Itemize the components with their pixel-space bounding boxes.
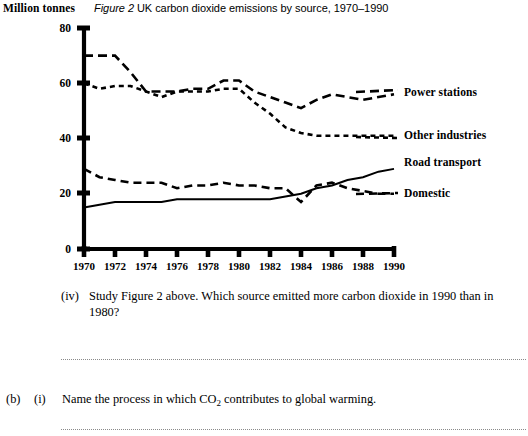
x-tick-label: 1986 <box>321 260 344 272</box>
question-b-i-text-after: contributes to global warming. <box>221 392 376 406</box>
legend-label-other-industries: Other industries <box>404 129 486 141</box>
x-tick-label: 1984 <box>290 260 313 272</box>
x-tick-label: 1972 <box>104 260 127 272</box>
y-axis-tick-labels: 80 60 40 20 0 <box>60 22 72 255</box>
series-line-domestic <box>84 169 394 202</box>
question-iv-marker: (iv) <box>61 289 89 305</box>
x-tick-label: 1970 <box>73 260 96 272</box>
x-tick-label: 1988 <box>352 260 375 272</box>
figure-2-chart: Million tonnes Figure 2 UK carbon dioxid… <box>0 0 528 276</box>
y-tick-label: 0 <box>65 243 71 255</box>
x-axis-tick-labels: 1970 1972 1974 1976 1978 1980 1982 1984 … <box>73 260 406 272</box>
y-tick-label: 80 <box>60 22 72 34</box>
series-line-road-transport <box>84 169 394 208</box>
series-line-power-stations <box>84 56 394 108</box>
x-tick-label: 1974 <box>135 260 158 272</box>
legend-label-road-transport: Road transport <box>404 156 481 168</box>
x-tick-label: 1978 <box>197 260 220 272</box>
legend-label-power-stations: Power stations <box>404 86 477 98</box>
y-tick-label: 20 <box>60 187 72 199</box>
question-i-marker: (i) <box>34 392 46 408</box>
answer-line-1[interactable] <box>61 357 526 360</box>
question-iv: (iv) Study Figure 2 above. Which source … <box>61 289 516 320</box>
legend-swatch-other-industries <box>356 137 398 138</box>
question-b-i-text-before: Name the process in which CO <box>62 392 217 406</box>
answer-line-2[interactable] <box>61 427 526 430</box>
question-iv-text: Study Figure 2 above. Which source emitt… <box>89 289 516 320</box>
y-tick-label: 60 <box>60 77 72 89</box>
question-b-i-text: Name the process in which CO2 contribute… <box>62 392 506 412</box>
chart-axes <box>84 28 394 249</box>
chart-series-group <box>84 56 394 208</box>
x-tick-label: 1980 <box>228 260 251 272</box>
question-b-i: (b) (i) Name the process in which CO2 co… <box>6 392 506 412</box>
series-line-other-industries <box>84 83 394 135</box>
legend-label-domestic: Domestic <box>404 187 450 199</box>
x-tick-label: 1976 <box>166 260 189 272</box>
x-tick-label: 1990 <box>383 260 406 272</box>
legend-swatch-power-stations <box>356 90 398 92</box>
y-tick-label: 40 <box>60 132 72 144</box>
question-b-marker: (b) <box>6 392 20 408</box>
legend-swatches <box>356 90 398 194</box>
x-tick-label: 1982 <box>259 260 282 272</box>
